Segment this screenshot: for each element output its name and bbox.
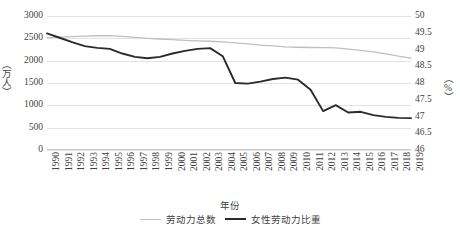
legend-swatch-icon: [140, 219, 161, 220]
x-axis-ticks: 1990199119921993199419951996199719981999…: [47, 152, 411, 198]
x-tick-label: 2011: [315, 152, 325, 171]
legend-swatch-icon: [225, 218, 246, 220]
y-tick-label-primary: 0: [38, 145, 43, 155]
series-line-labour-total: [47, 36, 411, 59]
x-tick-label: 1998: [151, 152, 161, 171]
x-tick-label: 2014: [352, 152, 362, 171]
x-tick-label: 2006: [252, 152, 262, 171]
legend-item[interactable]: 女性劳动力比重: [225, 212, 321, 226]
y-tick-label-primary: 1500: [24, 78, 43, 88]
y-tick-label-primary: 2000: [24, 56, 43, 66]
legend-label: 女性劳动力比重: [251, 212, 321, 226]
y-tick-label-secondary: 49.5: [415, 28, 432, 38]
x-tick-label: 1995: [114, 152, 124, 171]
x-tick-label: 1999: [164, 152, 174, 171]
x-tick-label: 2003: [214, 152, 224, 171]
x-tick-label: 2008: [277, 152, 287, 171]
x-tick-label: 2010: [302, 152, 312, 171]
series-lines: [47, 16, 411, 150]
y-tick-label-primary: 3000: [24, 11, 43, 21]
series-line-female-share: [47, 33, 411, 118]
y-tick-label-secondary: 48: [415, 78, 425, 88]
x-tick-label: 1997: [139, 152, 149, 171]
y-tick-label-secondary: 47.5: [415, 95, 432, 105]
x-tick-label: 2007: [264, 152, 274, 171]
y-tick-label-secondary: 50: [415, 11, 425, 21]
x-tick-label: 2005: [239, 152, 249, 171]
y-tick-label-secondary: 48.5: [415, 61, 432, 71]
legend-item[interactable]: 劳动力总数: [140, 212, 216, 226]
chart-legend: 劳动力总数女性劳动力比重: [0, 212, 460, 226]
y-tick-label-secondary: 46.5: [415, 128, 432, 138]
x-tick-label: 2016: [377, 152, 387, 171]
x-axis-label: 年份: [0, 198, 460, 212]
x-tick-label: 2009: [289, 152, 299, 171]
x-tick-label: 2019: [415, 152, 425, 171]
x-tick-label: 2013: [340, 152, 350, 171]
y-tick-label-primary: 2500: [24, 33, 43, 43]
x-tick-label: 1991: [64, 152, 74, 171]
x-tick-label: 2018: [402, 152, 412, 171]
x-tick-label: 2017: [390, 152, 400, 171]
y-tick-label-secondary: 47: [415, 112, 425, 122]
x-tick-label: 2000: [177, 152, 187, 171]
y-axis-label-secondary: （%）: [441, 74, 455, 101]
line-chart: （万人） （%） 050010001500200025003000 4646.5…: [0, 0, 460, 233]
gridline: [47, 150, 411, 151]
legend-label: 劳动力总数: [166, 212, 216, 226]
x-tick-label: 2001: [189, 152, 199, 171]
x-tick-label: 1994: [101, 152, 111, 171]
x-tick-label: 1990: [51, 152, 61, 171]
x-tick-label: 2012: [327, 152, 337, 171]
x-tick-label: 1992: [76, 152, 86, 171]
x-tick-label: 2004: [227, 152, 237, 171]
x-tick-label: 2002: [202, 152, 212, 171]
plot-area: [47, 16, 411, 150]
x-tick-label: 2015: [365, 152, 375, 171]
x-tick-label: 1996: [126, 152, 136, 171]
y-tick-label-primary: 1000: [24, 100, 43, 110]
x-tick-label: 1993: [89, 152, 99, 171]
y-tick-label-secondary: 49: [415, 45, 425, 55]
y-tick-label-primary: 500: [29, 123, 43, 133]
y-axis-label-primary: （万人）: [0, 60, 13, 96]
